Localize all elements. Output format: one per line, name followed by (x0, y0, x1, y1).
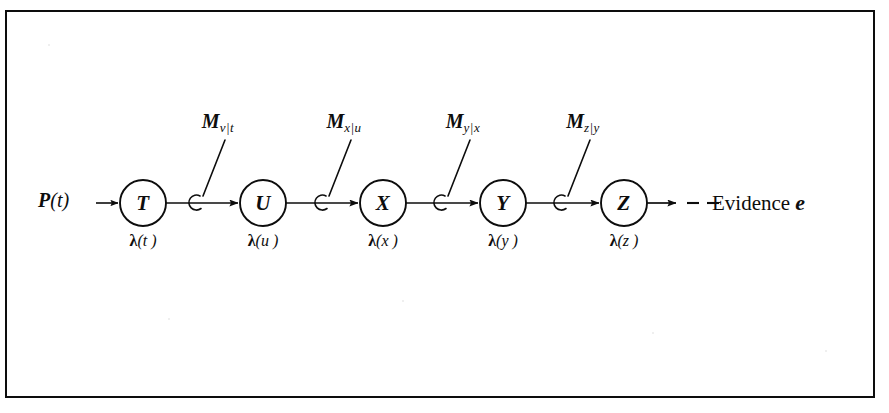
message-subscript-4: z|y (584, 120, 600, 135)
message-subscript-2: x|u (344, 120, 361, 135)
lambda-arg-y: (y ) (496, 232, 518, 249)
hook-m-z-y (554, 140, 590, 210)
node-label-t: T (120, 191, 166, 216)
prior-symbol: P (38, 189, 50, 211)
lambda-label-u: λ(u ) (228, 232, 298, 250)
lambda-arg-z: (z ) (617, 232, 638, 249)
prior-label: P(t) (38, 189, 69, 212)
hook-m-x-u (315, 140, 351, 210)
message-subscript-1: v|t (220, 120, 234, 135)
message-label-m-u-t: Mv|t (202, 110, 234, 133)
message-label-m-y-x: My|x (446, 110, 480, 133)
lambda-arg-t: (t ) (137, 232, 156, 249)
message-m-symbol-2: M (326, 110, 344, 132)
node-label-x: X (360, 191, 406, 216)
node-label-y: Y (480, 191, 526, 216)
lambda-symbol-u: λ (248, 232, 256, 249)
message-label-m-x-u: Mx|u (326, 110, 361, 133)
scan-speck (168, 318, 170, 320)
lambda-label-y: λ(y ) (468, 232, 538, 250)
message-m-symbol-4: M (566, 110, 584, 132)
message-subscript-3: y|x (464, 120, 481, 135)
figure-root: P(t) T U X Y Z λ(t ) λ(u ) λ(x ) λ(y ) λ… (0, 0, 889, 413)
message-m-symbol-3: M (446, 110, 464, 132)
lambda-label-t: λ(t ) (108, 232, 178, 250)
lambda-label-z: λ(z ) (589, 232, 659, 250)
prior-argument: (t) (50, 189, 69, 211)
evidence-symbol: e (790, 190, 805, 215)
hook-m-y-x (434, 140, 470, 210)
evidence-text: Evidence (712, 191, 790, 215)
lambda-arg-x: (x ) (376, 232, 398, 249)
scan-speck (825, 350, 827, 352)
node-label-u: U (240, 191, 286, 216)
lambda-arg-u: (u ) (256, 232, 279, 249)
message-label-m-z-y: Mz|y (566, 110, 600, 133)
scan-speck (48, 44, 50, 46)
lambda-symbol-x: λ (368, 232, 376, 249)
evidence-label: Evidencee (712, 190, 805, 216)
message-m-symbol-1: M (202, 110, 220, 132)
scan-speck (402, 300, 404, 302)
hook-m-u-t (189, 140, 225, 210)
scan-speck (652, 332, 654, 334)
lambda-symbol-y: λ (488, 232, 496, 249)
lambda-label-x: λ(x ) (348, 232, 418, 250)
node-label-z: Z (601, 191, 647, 216)
